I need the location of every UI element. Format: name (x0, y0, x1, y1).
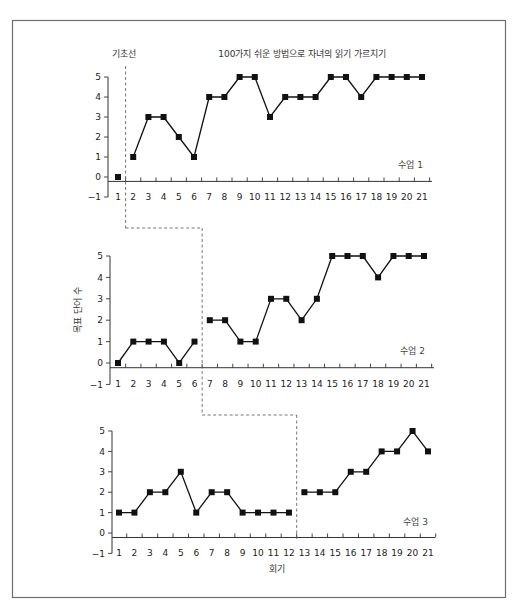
data-point-marker (146, 339, 152, 345)
x-tick-label: 1 (116, 548, 122, 558)
data-point-marker (425, 448, 431, 454)
data-point-marker (240, 510, 246, 516)
x-tick-label: 8 (222, 192, 228, 202)
data-point-marker (115, 360, 121, 366)
x-tick-label: 21 (416, 192, 427, 202)
x-tick-label: 3 (146, 192, 152, 202)
data-point-marker (176, 360, 182, 366)
x-tick-label: 20 (407, 548, 419, 558)
x-tick-label: 16 (342, 379, 354, 389)
data-point-marker (255, 510, 261, 516)
x-tick-label: 21 (418, 379, 429, 389)
data-point-marker (299, 317, 305, 323)
x-tick-label: 8 (224, 548, 230, 558)
baseline-series-line (118, 342, 195, 363)
x-tick-label: 5 (178, 548, 184, 558)
x-tick-label: 17 (355, 192, 366, 202)
panel-3: −101234512345678910111213141516171819202… (92, 426, 436, 558)
y-tick-label: 1 (99, 508, 105, 518)
data-point-marker (348, 469, 354, 475)
data-point-marker (301, 489, 307, 495)
data-point-marker (237, 74, 243, 80)
data-point-marker (161, 339, 167, 345)
x-tick-label: 2 (130, 192, 136, 202)
x-tick-label: 15 (326, 379, 337, 389)
data-point-marker (394, 448, 400, 454)
x-tick-label: 9 (240, 548, 246, 558)
y-tick-label: 4 (97, 273, 103, 283)
data-point-marker (206, 94, 212, 100)
x-tick-label: 19 (388, 379, 400, 389)
y-tick-label: 0 (99, 528, 105, 538)
data-point-marker (297, 94, 303, 100)
data-point-marker (373, 74, 379, 80)
data-point-marker (268, 296, 274, 302)
data-point-marker (404, 74, 410, 80)
y-tick-label: 4 (95, 92, 101, 102)
x-tick-label: 1 (115, 192, 121, 202)
panel-1: −101234512345678910111213141516171819202… (88, 72, 432, 202)
x-tick-label: 13 (295, 192, 306, 202)
x-tick-label: 12 (279, 192, 290, 202)
x-tick-label: 6 (191, 192, 197, 202)
x-tick-label: 5 (176, 192, 182, 202)
data-point-marker (286, 510, 292, 516)
data-point-marker (224, 489, 230, 495)
data-point-marker (147, 489, 153, 495)
y-axis-label: 목표 단어 수 (73, 287, 83, 333)
data-point-marker (375, 274, 381, 280)
y-tick-label: 3 (95, 112, 101, 122)
y-tick-label: 4 (99, 447, 105, 457)
x-tick-label: 14 (310, 192, 322, 202)
x-tick-label: 20 (403, 379, 415, 389)
data-point-marker (192, 339, 198, 345)
y-tick-label: 2 (95, 132, 101, 142)
data-point-marker (253, 339, 259, 345)
data-point-marker (131, 510, 137, 516)
y-tick-label: 5 (99, 426, 105, 436)
y-tick-label: 3 (99, 467, 105, 477)
baseline-series-line (119, 472, 289, 513)
data-point-marker (252, 74, 258, 80)
data-point-marker (162, 489, 168, 495)
data-point-marker (329, 253, 335, 259)
x-tick-label: 10 (249, 192, 261, 202)
data-point-marker (130, 339, 136, 345)
x-tick-label: 13 (299, 548, 310, 558)
x-tick-label: 2 (132, 548, 138, 558)
x-tick-label: 11 (264, 192, 275, 202)
data-point-marker (363, 469, 369, 475)
y-tick-label: −1 (88, 192, 101, 202)
phase-change-line (126, 66, 297, 540)
panel-2: −101234512345678910111213141516171819202… (90, 251, 434, 389)
treatment-series-line (133, 77, 422, 157)
x-tick-label: 9 (237, 192, 243, 202)
data-point-marker (419, 74, 425, 80)
data-point-marker (191, 154, 197, 160)
data-point-marker (207, 317, 213, 323)
x-tick-label: 19 (386, 192, 398, 202)
x-tick-label: 7 (207, 379, 213, 389)
y-tick-label: −1 (92, 549, 105, 559)
x-tick-label: 15 (330, 548, 341, 558)
data-point-marker (314, 296, 320, 302)
panel-label: 수업 3 (403, 517, 428, 527)
data-point-marker (358, 94, 364, 100)
panels: −101234512345678910111213141516171819202… (88, 72, 436, 558)
x-tick-label: 19 (391, 548, 403, 558)
multiple-baseline-chart: 기초선 100가지 쉬운 방법으로 자녀의 읽기 가르치기 목표 단어 수 회기… (0, 0, 518, 609)
data-point-marker (390, 253, 396, 259)
chart-title: 100가지 쉬운 방법으로 자녀의 읽기 가르치기 (218, 48, 385, 59)
x-tick-label: 18 (376, 548, 388, 558)
data-point-marker (332, 489, 338, 495)
data-point-marker (317, 489, 323, 495)
data-point-marker (328, 74, 334, 80)
data-point-marker (271, 510, 277, 516)
x-tick-label: 1 (115, 379, 121, 389)
data-point-marker (116, 510, 122, 516)
x-tick-label: 4 (162, 548, 168, 558)
x-tick-label: 16 (340, 192, 352, 202)
x-tick-label: 3 (146, 379, 152, 389)
x-tick-label: 12 (283, 548, 294, 558)
x-tick-label: 6 (192, 379, 198, 389)
